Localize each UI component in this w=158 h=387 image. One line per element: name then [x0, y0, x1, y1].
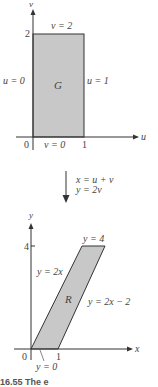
v-tick-2: 2: [25, 29, 30, 39]
region-r-label: R: [65, 294, 72, 305]
u-axis-arrow-icon: [133, 135, 139, 140]
transform-eq-y: y = 2v: [76, 185, 102, 195]
top-edge-label: v = 2: [51, 21, 72, 31]
u-tick-0: 0: [24, 140, 29, 150]
y0-leader-line: [40, 350, 44, 361]
bottom-edge-label: v = 0: [44, 140, 65, 150]
x-axis-label: x: [135, 344, 139, 354]
right-edge-label-r: y = 2x − 2: [88, 297, 130, 307]
top-edge-label-r: y = 4: [83, 234, 104, 244]
region-g-label: G: [54, 80, 62, 91]
left-edge-label: u = 0: [3, 76, 25, 86]
left-edge-label-r: y = 2x: [37, 267, 63, 277]
u-tick-1: 1: [82, 140, 87, 150]
x-tick-0: 0: [22, 352, 27, 362]
y-axis-arrow-icon: [29, 223, 34, 229]
y-tick-4-label: 4: [24, 242, 29, 252]
v-axis-arrow-icon: [31, 9, 36, 15]
transform-arrow-head-icon: [63, 195, 70, 203]
v-axis-label: v: [29, 0, 33, 9]
x-axis-arrow-icon: [127, 347, 133, 352]
bottom-edge-label-r: y = 0: [36, 362, 57, 372]
figure-caption: 16.55 The e: [0, 377, 49, 387]
right-edge-label: u = 1: [87, 76, 109, 86]
y-axis-label: y: [29, 211, 33, 220]
u-axis-label: u: [141, 132, 146, 142]
